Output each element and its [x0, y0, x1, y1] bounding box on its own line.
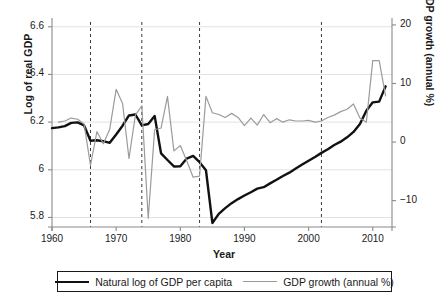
x-tick-label: 1980	[160, 233, 200, 244]
y-tick-label-left: 6.2	[4, 115, 44, 126]
x-axis-title: Year	[0, 248, 448, 260]
x-tick-label: 1970	[96, 233, 136, 244]
chart-legend: Natural log of GDP per capita GDP growth…	[57, 271, 392, 292]
legend-label-gdp: Natural log of GDP per capita	[95, 276, 232, 288]
legend-item-gdp[interactable]: Natural log of GDP per capita	[55, 276, 232, 288]
y-tick-label-right: −10	[400, 194, 440, 205]
x-tick-label: 2010	[353, 233, 393, 244]
y-tick-label-right: 20	[400, 18, 440, 29]
legend-label-growth: GDP growth (annual %)	[283, 276, 394, 288]
y-tick-label-left: 6.6	[4, 20, 44, 31]
y-tick-label-left: 5.8	[4, 210, 44, 221]
x-tick-label: 1960	[32, 233, 72, 244]
series-line-log-gdp	[52, 86, 386, 223]
chart-figure: Log of real GDP GDP growth (annual %) Ye…	[0, 0, 448, 298]
y-tick-label-left: 6.4	[4, 67, 44, 78]
legend-swatch-gdp-line-icon	[55, 281, 89, 283]
series-line-gdp-growth	[58, 61, 385, 219]
y-tick-label-right: 0	[400, 135, 440, 146]
x-tick-label: 1990	[224, 233, 264, 244]
legend-item-growth[interactable]: GDP growth (annual %)	[243, 276, 394, 288]
legend-swatch-growth-line-icon	[243, 281, 277, 282]
y-tick-label-right: 10	[400, 77, 440, 88]
y-tick-label-left: 6	[4, 163, 44, 174]
x-tick-label: 2000	[289, 233, 329, 244]
